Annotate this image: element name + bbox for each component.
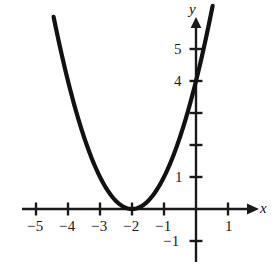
x-tick-label--4: −4	[59, 219, 75, 234]
y-axis-label: y	[189, 2, 196, 17]
y-tick-label-1: 1	[175, 170, 183, 185]
y-tick-label--1: −1	[163, 234, 179, 249]
x-tick-label--2: −2	[123, 219, 139, 234]
x-tick-label--5: −5	[27, 219, 43, 234]
graph-figure: −5 −4 −3 −2 −1 1 5 4 1 −1 x y	[0, 0, 276, 279]
x-tick-label--1: −1	[155, 219, 171, 234]
x-tick-label-1: 1	[225, 219, 233, 234]
y-tick-label-5: 5	[174, 42, 182, 57]
x-tick-label--3: −3	[91, 219, 107, 234]
parabola-plot	[0, 0, 276, 279]
y-tick-label-4: 4	[174, 74, 182, 89]
parabola-curve	[54, 6, 213, 209]
x-axis-label: x	[260, 201, 267, 216]
y-axis	[191, 17, 202, 262]
